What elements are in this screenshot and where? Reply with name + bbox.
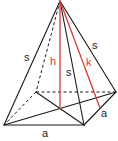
label-k: k xyxy=(86,56,92,68)
label-h: h xyxy=(50,55,56,67)
label-s-left: s xyxy=(24,51,30,63)
label-a-right: a xyxy=(101,107,108,119)
label-s-front: s xyxy=(66,66,72,78)
label-a-front: a xyxy=(42,127,49,139)
pyramid-diagram: s s s h k a a xyxy=(0,0,118,141)
label-s-right: s xyxy=(92,39,98,51)
